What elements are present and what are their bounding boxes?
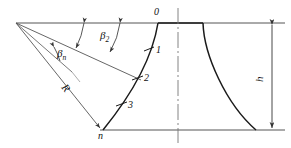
angle-arc-beta2-outer — [110, 23, 120, 52]
station-tick-1 — [144, 47, 154, 51]
station-label-n: n — [98, 131, 103, 141]
station-label-2: 2 — [144, 73, 149, 83]
beta2-subscript: 2 — [105, 35, 109, 44]
angle-arc-beta2-inner — [76, 23, 84, 48]
station-label-3: 3 — [128, 100, 133, 110]
angle-label-beta-n: βn — [57, 48, 66, 62]
right-profile-curve — [203, 23, 256, 130]
height-label-h: h — [254, 77, 265, 83]
station-label-0: 0 — [154, 7, 159, 17]
chord-line-beta2 — [16, 23, 141, 80]
figure-canvas: 0 1 2 3 n β2 βn R h — [0, 0, 291, 148]
station-label-1: 1 — [156, 45, 161, 55]
construction-ray-extension — [72, 72, 80, 82]
left-profile-curve — [103, 23, 158, 130]
radius-line-R — [16, 23, 100, 128]
angle-label-beta2: β2 — [100, 30, 109, 44]
beta-n-subscript: n — [62, 53, 66, 62]
